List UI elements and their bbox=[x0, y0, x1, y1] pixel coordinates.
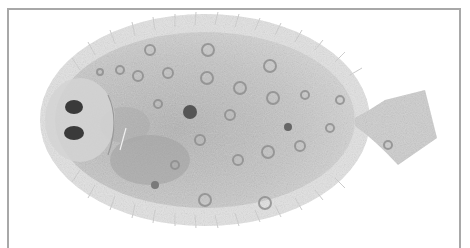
dark-spot bbox=[183, 105, 197, 119]
dark-spot bbox=[284, 123, 292, 131]
head bbox=[45, 78, 115, 162]
lower-eye bbox=[64, 126, 84, 140]
upper-eye bbox=[65, 100, 83, 114]
